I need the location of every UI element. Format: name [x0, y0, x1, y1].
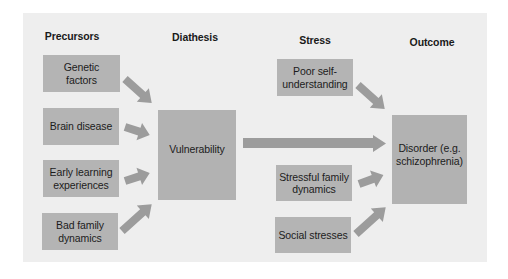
precursor-early-learning-box: Early learning experiences [43, 160, 119, 197]
heading-stress: Stress [299, 34, 331, 46]
precursor-label: Brain disease [50, 120, 112, 133]
stress-stressful-family-dynamics-box: Stressful family dynamics [276, 165, 352, 201]
heading-precursors: Precursors [45, 30, 99, 42]
precursor-brain-disease-box: Brain disease [43, 108, 119, 145]
stress-label: Stressful family dynamics [279, 171, 349, 196]
heading-diathesis: Diathesis [172, 31, 218, 43]
diathesis-vulnerability-box: Vulnerability [158, 110, 236, 200]
precursor-label: Bad family dynamics [53, 219, 107, 244]
outcome-disorder-box: Disorder (e.g. schizophrenia) [392, 115, 467, 204]
stress-label: Social stresses [278, 229, 347, 242]
precursor-label: Early learning experiences [48, 166, 114, 191]
precursor-genetic-factors-box: Genetic factors [43, 55, 120, 92]
stress-poor-self-understanding-box: Poor self-understanding [277, 59, 353, 96]
precursor-bad-family-dynamics-box: Bad family dynamics [42, 213, 118, 250]
stress-social-stresses-box: Social stresses [275, 217, 351, 253]
precursor-label: Genetic factors [58, 61, 106, 86]
stress-label: Poor self-understanding [282, 65, 348, 90]
outcome-label: Disorder (e.g. schizophrenia) [396, 142, 464, 167]
heading-outcome: Outcome [410, 36, 455, 48]
diathesis-label: Vulnerability [169, 143, 225, 156]
